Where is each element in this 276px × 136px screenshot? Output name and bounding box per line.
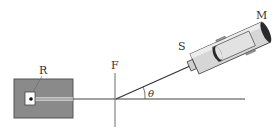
label-R: R xyxy=(39,64,48,77)
source-dot-icon xyxy=(29,97,33,101)
label-S: S xyxy=(178,40,186,53)
diagram-canvas: R F S M θ xyxy=(0,0,276,136)
detector-microscope xyxy=(184,19,275,78)
angle-arc xyxy=(143,87,145,99)
label-F: F xyxy=(111,59,119,72)
label-theta: θ xyxy=(148,88,154,99)
source-box xyxy=(14,76,73,118)
label-M: M xyxy=(256,9,267,22)
